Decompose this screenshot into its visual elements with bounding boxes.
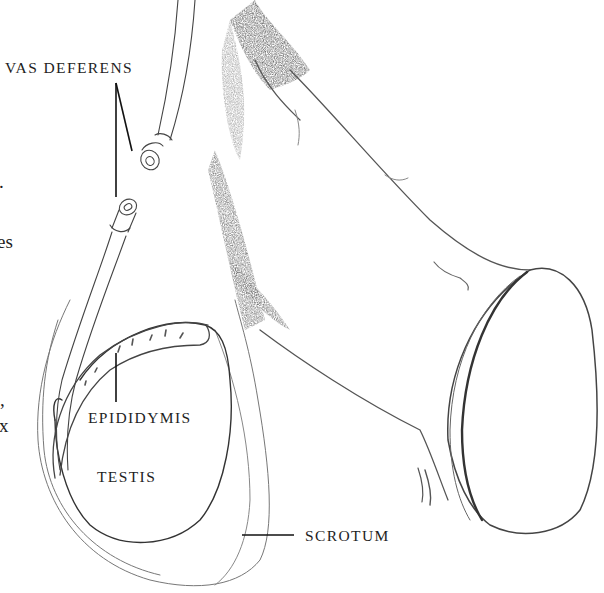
epididymis-drawing <box>53 323 209 478</box>
label-vas-deferens: VAS DEFERENS <box>5 60 133 76</box>
label-scrotum: SCROTUM <box>305 528 390 544</box>
testis-drawing <box>54 322 231 542</box>
anatomy-drawing <box>0 0 604 593</box>
vas-deferens-upper <box>137 0 195 173</box>
vas-leader-upper <box>116 83 132 151</box>
illustration-canvas: VAS DEFERENS EPIDIDYMIS TESTIS SCROTUM .… <box>0 0 604 593</box>
penis-outline <box>255 60 597 533</box>
label-epididymis: EPIDIDYMIS <box>88 410 192 426</box>
pubic-hair-shading <box>208 0 310 330</box>
vas-deferens-lower <box>56 196 139 470</box>
margin-fragment-comma: , <box>0 390 5 409</box>
scrotum-outline <box>38 300 270 586</box>
margin-fragment-es: es <box>0 232 13 251</box>
margin-fragment-period: . <box>0 172 4 191</box>
label-testis: TESTIS <box>97 469 156 485</box>
margin-fragment-x: x <box>0 416 9 435</box>
